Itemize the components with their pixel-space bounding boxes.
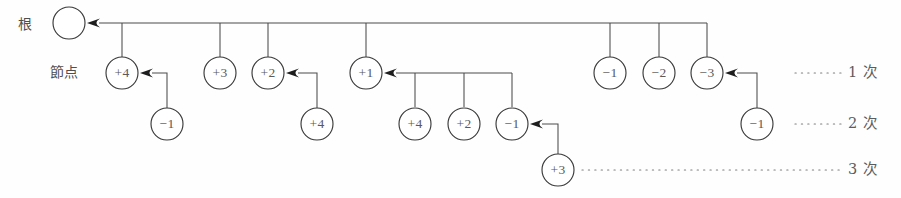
tree-node-n-t1-e[interactable]: −1 xyxy=(594,57,626,89)
bus-edge-n-t1-d xyxy=(384,69,512,108)
tree-node-n-t1-b[interactable]: +3 xyxy=(204,57,236,89)
bus-arrowhead xyxy=(87,19,100,28)
tree-node-n-t2-d[interactable]: +2 xyxy=(448,108,480,140)
elbow-path xyxy=(298,73,317,108)
elbow-arrowhead xyxy=(725,69,738,78)
node-label: −1 xyxy=(602,65,617,80)
elbow-path xyxy=(542,124,558,154)
elbow-edge-n-t3-a xyxy=(530,120,558,155)
node-label: +4 xyxy=(407,116,422,131)
node-label: +2 xyxy=(260,65,275,80)
tree-node-n-t1-f[interactable]: −2 xyxy=(643,57,675,89)
elbow-arrowhead xyxy=(286,69,299,78)
node-label: −1 xyxy=(749,116,764,131)
elbow-arrowhead xyxy=(140,69,153,78)
bus-edge-root xyxy=(87,19,707,58)
tree-node-n-t2-c[interactable]: +4 xyxy=(399,108,431,140)
elbow-edge-n-t2-f xyxy=(725,69,757,109)
elbow-edge-n-t2-b xyxy=(286,69,317,109)
node-label: −1 xyxy=(159,116,174,131)
node-label: +4 xyxy=(309,116,324,131)
tree-node-n-t1-g[interactable]: −3 xyxy=(691,57,723,89)
tree-node-n-t2-e[interactable]: −1 xyxy=(496,108,528,140)
tree-node-n-t1-d[interactable]: +1 xyxy=(350,57,382,89)
leader-tier-1-label: 1 次 xyxy=(848,64,877,80)
tree-node-n-t1-a[interactable]: +4 xyxy=(106,57,138,89)
node-label: −3 xyxy=(699,65,714,80)
nodes-group: +4+3+2+1−1−2−3−1+4+4+2−1−1+3 xyxy=(53,7,773,186)
tree-node-n-t3-a[interactable]: +3 xyxy=(542,154,574,186)
node-label: +2 xyxy=(456,116,471,131)
elbow-path xyxy=(737,73,757,108)
tree-node-n-t2-a[interactable]: −1 xyxy=(151,108,183,140)
node-circle[interactable] xyxy=(53,7,85,39)
bus-arrowhead xyxy=(384,69,397,78)
node-label: +4 xyxy=(114,65,129,80)
tree-diagram-canvas: +4+3+2+1−1−2−3−1+4+4+2−1−1+3 根節点 1 次2 次3… xyxy=(0,0,901,198)
label-root: 根 xyxy=(18,16,32,32)
tree-node-n-t2-f[interactable]: −1 xyxy=(741,108,773,140)
tree-diagram-svg: +4+3+2+1−1−2−3−1+4+4+2−1−1+3 根節点 1 次2 次3… xyxy=(0,0,901,198)
elbow-edge-n-t2-a xyxy=(140,69,167,109)
leader-tier-2-label: 2 次 xyxy=(848,115,877,131)
elbow-arrowhead xyxy=(530,120,543,129)
node-label: +1 xyxy=(358,65,373,80)
node-label: +3 xyxy=(212,65,227,80)
node-label: −1 xyxy=(504,116,519,131)
node-label: −2 xyxy=(651,65,666,80)
root-node-root[interactable] xyxy=(53,7,85,39)
label-node: 節点 xyxy=(50,64,78,80)
tier-labels-group: 1 次2 次3 次 xyxy=(848,64,877,177)
node-label: +3 xyxy=(550,162,565,177)
leader-tier-3-label: 3 次 xyxy=(848,161,877,177)
tree-node-n-t1-c[interactable]: +2 xyxy=(252,57,284,89)
tree-node-n-t2-b[interactable]: +4 xyxy=(301,108,333,140)
elbow-path xyxy=(152,73,167,108)
